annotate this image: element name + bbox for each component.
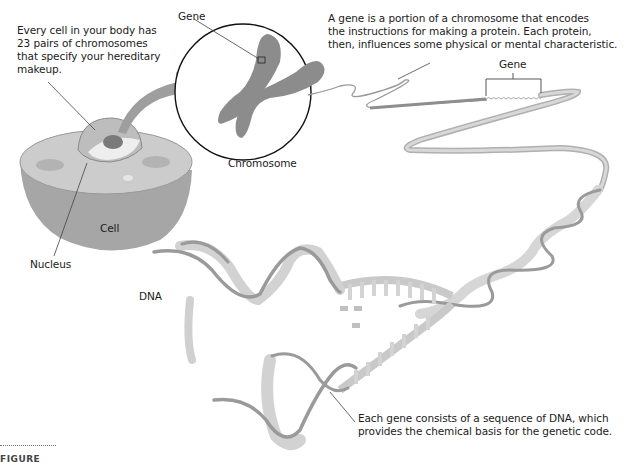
dna-helix-right — [400, 190, 600, 314]
dna-label: DNA — [139, 290, 162, 303]
figure-caption-label: FIGURE — [0, 454, 40, 462]
dna-ladder — [340, 280, 452, 390]
cell-label: Cell — [100, 222, 119, 235]
dna-note: Each gene consists of a sequence of DNA,… — [358, 412, 612, 438]
cell-note: Every cell in your body has 23 pairs of … — [17, 24, 160, 76]
dna-helix-upper — [154, 242, 340, 360]
chromosome-magnification — [175, 24, 325, 160]
gene-label-circle: Gene — [178, 10, 205, 23]
gene-note: A gene is a portion of a chromosome that… — [328, 12, 617, 51]
footer-dotted-rule — [0, 445, 56, 446]
nucleus-label: Nucleus — [30, 258, 71, 271]
dna-helix-lower — [214, 354, 356, 444]
gene-bracket — [486, 73, 541, 96]
chromosome-label: Chromosome — [228, 157, 297, 170]
gene-label-bracket: Gene — [499, 58, 526, 71]
